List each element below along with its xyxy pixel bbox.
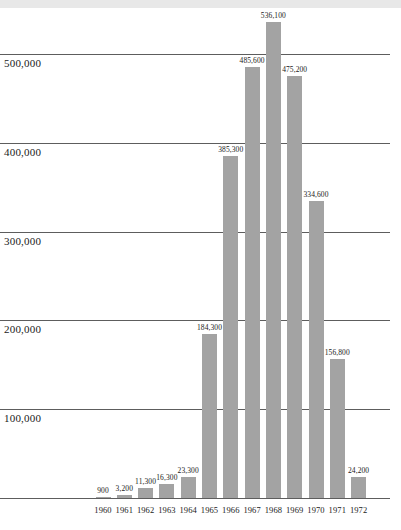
- gridline-300000: [0, 232, 390, 233]
- y-axis-tick-label: 500,000: [4, 57, 41, 69]
- bar-1972: [351, 477, 366, 498]
- bar-1967: [245, 67, 260, 498]
- bar-value-label-1968: 536,100: [250, 11, 296, 20]
- bar-value-label-1972: 24,200: [336, 466, 382, 475]
- bar-1964: [181, 477, 196, 498]
- y-axis-tick-label: 200,000: [4, 323, 41, 335]
- gridline-500000: [0, 54, 390, 55]
- top-decorative-band: [0, 0, 401, 8]
- y-axis-tick-label: 300,000: [4, 235, 41, 247]
- x-axis-tick-label-1972: 1972: [344, 505, 374, 515]
- x-axis-baseline: [0, 498, 390, 499]
- bar-1963: [159, 484, 174, 498]
- bar-1962: [138, 488, 153, 498]
- bar-value-label-1971: 156,800: [314, 348, 360, 357]
- bar-1966: [223, 156, 238, 498]
- bar-1969: [287, 76, 302, 498]
- bar-1965: [202, 334, 217, 498]
- gridline-200000: [0, 320, 390, 321]
- bar-1960: [96, 497, 111, 498]
- gridline-400000: [0, 143, 390, 144]
- y-axis-tick-label: 100,000: [4, 412, 41, 424]
- bar-value-label-1969: 475,200: [272, 65, 318, 74]
- y-axis-tick-label: 400,000: [4, 146, 41, 158]
- bar-1961: [117, 495, 132, 498]
- bar-chart: 100,000200,000300,000400,000500,00090019…: [0, 8, 401, 530]
- bar-value-label-1970: 334,600: [293, 190, 339, 199]
- bar-1971: [330, 359, 345, 498]
- bar-1968: [266, 22, 281, 498]
- plot-area: 100,000200,000300,000400,000500,00090019…: [0, 8, 401, 530]
